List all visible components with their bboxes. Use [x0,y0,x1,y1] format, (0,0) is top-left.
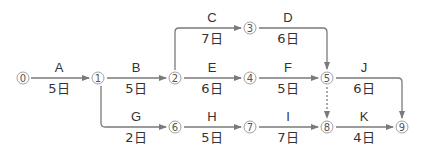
svg-text:4: 4 [247,73,253,84]
arrow-diagram: 0 1 2 3 4 5 6 7 8 9 A 5日 B 5日 C 7日 D 6日 … [0,0,421,151]
svg-text:3: 3 [247,23,253,34]
node-4: 4 [244,72,256,84]
node-5: 5 [321,72,333,84]
svg-text:2: 2 [172,73,178,84]
activity-b-duration: 5日 [125,81,146,96]
node-6: 6 [169,121,181,133]
activity-j-name: J [361,60,368,75]
activity-h-duration: 5日 [201,130,222,145]
svg-text:6: 6 [172,122,178,133]
node-7: 7 [244,121,256,133]
svg-text:5: 5 [324,73,330,84]
node-3: 3 [244,22,256,34]
svg-text:8: 8 [324,122,330,133]
node-9: 9 [396,121,408,133]
activity-k-duration: 4日 [353,130,374,145]
activity-d-name: D [283,10,292,25]
activity-h-name: H [207,109,216,124]
node-8: 8 [321,121,333,133]
activity-a-name: A [55,60,64,75]
svg-text:1: 1 [95,73,101,84]
activity-c-duration: 7日 [201,31,222,46]
activity-i-name: I [286,109,290,124]
node-1: 1 [92,72,104,84]
node-2: 2 [169,72,181,84]
node-0: 0 [17,72,29,84]
activity-a-duration: 5日 [48,81,69,96]
activity-g-duration: 2日 [125,130,146,145]
activity-b-name: B [132,60,141,75]
svg-text:7: 7 [247,122,253,133]
activity-e-name: E [208,60,217,75]
activity-f-name: F [284,60,292,75]
svg-text:9: 9 [399,122,405,133]
activity-f-duration: 5日 [277,81,298,96]
activity-j-duration: 6日 [353,81,374,96]
activity-k-name: K [360,109,369,124]
activity-e-duration: 6日 [201,81,222,96]
activity-g-name: G [131,109,141,124]
activity-c-name: C [207,10,216,25]
svg-text:0: 0 [20,73,26,84]
activity-d-duration: 6日 [277,31,298,46]
activity-i-duration: 7日 [277,130,298,145]
